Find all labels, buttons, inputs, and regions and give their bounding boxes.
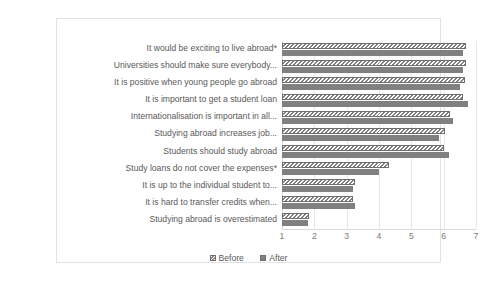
- bar-after: [282, 101, 468, 107]
- bar-after: [282, 220, 308, 226]
- bar-before: [282, 128, 445, 134]
- category-label: Internationalisation is important in all…: [59, 111, 277, 122]
- legend-label-before: Before: [219, 253, 244, 263]
- bar-after: [282, 67, 463, 73]
- chart-container: It would be exciting to live abroad*Univ…: [56, 18, 441, 263]
- category-label: It is important to get a student loan: [59, 94, 277, 105]
- bar-after: [282, 203, 355, 209]
- x-tick-label: 1: [272, 231, 292, 241]
- plot-area: [282, 41, 476, 229]
- category-label: It is positive when young people go abro…: [59, 77, 277, 88]
- bar-before: [282, 111, 450, 117]
- bar-after: [282, 50, 463, 56]
- x-tick-label: 4: [369, 231, 389, 241]
- legend-item-before: Before: [210, 252, 244, 263]
- bar-after: [282, 152, 449, 158]
- bar-before: [282, 43, 466, 49]
- category-label: Students should study abroad: [59, 146, 277, 157]
- chart-legend: Before After: [57, 252, 440, 263]
- legend-item-after: After: [260, 252, 287, 263]
- x-tick-label: 6: [434, 231, 454, 241]
- bar-before: [282, 162, 389, 168]
- bar-after: [282, 186, 353, 192]
- bar-before: [282, 94, 463, 100]
- x-tick-label: 3: [337, 231, 357, 241]
- category-label: Studying abroad increases job...: [59, 128, 277, 139]
- bar-before: [282, 179, 355, 185]
- category-label: It would be exciting to live abroad*: [59, 43, 277, 54]
- category-label: Study loans do not cover the expenses*: [59, 163, 277, 174]
- category-label: Studying abroad is overestimated: [59, 214, 277, 225]
- bar-before: [282, 60, 466, 66]
- legend-label-after: After: [269, 253, 287, 263]
- category-label: Universities should make sure everybody.…: [59, 60, 277, 71]
- bar-after: [282, 135, 439, 141]
- bar-before: [282, 145, 444, 151]
- bar-series-group: [282, 41, 476, 229]
- legend-swatch-after-icon: [260, 255, 266, 261]
- bar-before: [282, 213, 309, 219]
- bar-after: [282, 118, 453, 124]
- category-axis-labels: It would be exciting to live abroad*Univ…: [57, 41, 277, 229]
- x-axis-tick-labels: 1234567: [282, 229, 482, 247]
- bar-after: [282, 84, 460, 90]
- x-tick-label: 7: [466, 231, 483, 241]
- gridline: [476, 41, 477, 229]
- bar-before: [282, 77, 465, 83]
- bar-before: [282, 196, 353, 202]
- legend-swatch-before-icon: [210, 255, 216, 261]
- category-label: It is hard to transfer credits when...: [59, 197, 277, 208]
- x-tick-label: 2: [304, 231, 324, 241]
- bar-after: [282, 169, 379, 175]
- category-label: It is up to the individual student to...: [59, 180, 277, 191]
- x-tick-label: 5: [401, 231, 421, 241]
